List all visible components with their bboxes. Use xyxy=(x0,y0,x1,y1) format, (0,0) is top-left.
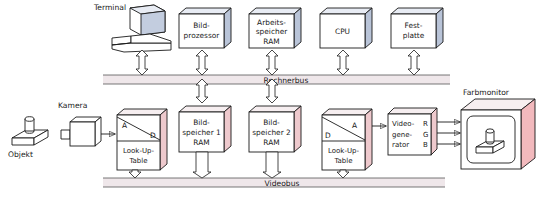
arrow-bildprozessor-to-rechnerbus xyxy=(196,50,208,75)
bildspeicher1-line-3: RAM xyxy=(193,138,209,147)
bildspeicher1-line-1: Bild- xyxy=(193,118,210,127)
lut-ad-analog-label: A xyxy=(122,121,127,130)
bildprozessor-line-2: prozessor xyxy=(184,31,221,40)
arrow-festplatte-to-rechnerbus xyxy=(408,50,420,75)
festplatte-line-1: Fest- xyxy=(405,21,423,30)
terminal-label: Terminal xyxy=(93,3,126,12)
arrow-terminal-to-rechnerbus xyxy=(136,50,148,75)
bildspeicher2-line-1: Bild- xyxy=(263,118,280,127)
videobus: Videobus xyxy=(103,178,445,188)
unit-videogenerator: Video- gene- rator R G B xyxy=(388,108,460,155)
objekt-label: Objekt xyxy=(8,150,33,159)
arrow-videobus-to-lut-da xyxy=(337,170,349,178)
unit-bildspeicher1: Bild- speicher 1 RAM xyxy=(179,106,231,152)
farbmonitor-label: Farbmonitor xyxy=(463,88,510,97)
lut-da-line-1: Look-Up- xyxy=(328,147,359,155)
unit-festplatte: Fest- platte xyxy=(391,8,443,48)
arbeitsspeicher-line-2: speicher xyxy=(256,27,288,36)
unit-bildspeicher2: Bild- speicher 2 RAM xyxy=(249,106,301,152)
unit-cpu: CPU xyxy=(320,8,372,48)
lut-ad-digital-label: D xyxy=(150,131,156,140)
unit-objekt: Objekt xyxy=(8,117,48,159)
unit-lut-da: D A Look-Up- Table xyxy=(322,109,386,170)
arbeitsspeicher-line-3: RAM xyxy=(263,37,279,46)
videogenerator-output-g: G xyxy=(423,131,428,139)
arrow-lut-ad-to-videobus xyxy=(129,170,141,178)
unit-kamera: Kamera xyxy=(58,101,115,146)
bildprozessor-line-1: Bild- xyxy=(193,21,210,30)
bildspeicher2-line-3: RAM xyxy=(263,138,279,147)
figure-canvas: Rechnerbus Videobus Terminal xyxy=(0,0,541,202)
unit-arbeitsspeicher: Arbeits- speicher RAM xyxy=(249,8,301,48)
videogenerator-line-1: Video- xyxy=(392,120,415,128)
lut-ad-line-2: Table xyxy=(128,157,147,165)
unit-terminal: Terminal xyxy=(93,3,171,52)
arrow-bildspeicher1-to-videobus xyxy=(193,152,211,178)
lut-da-line-2: Table xyxy=(333,157,352,165)
arbeitsspeicher-line-1: Arbeits- xyxy=(257,18,286,27)
bildspeicher2-line-2: speicher 2 xyxy=(252,128,291,137)
arrow-bildspeicher2-to-videobus xyxy=(263,152,281,178)
lut-da-analog-label: A xyxy=(352,121,357,130)
videogenerator-line-2: gene- xyxy=(392,131,412,139)
arrow-cpu-to-rechnerbus xyxy=(337,50,349,75)
arrow-arbeitsspeicher-to-rechnerbus xyxy=(266,50,278,75)
lut-ad-line-1: Look-Up- xyxy=(123,147,154,155)
festplatte-line-2: platte xyxy=(403,31,425,40)
videogenerator-output-b: B xyxy=(423,141,428,149)
bildspeicher1-line-2: speicher 1 xyxy=(182,128,221,137)
unit-lut-ad: A D Look-Up- Table xyxy=(117,109,167,170)
unit-bildprozessor: Bild- prozessor xyxy=(179,8,231,48)
block-diagram-svg: Rechnerbus Videobus Terminal xyxy=(0,0,541,202)
videobus-label: Videobus xyxy=(265,179,300,188)
videogenerator-output-r: R xyxy=(423,120,428,128)
kamera-label: Kamera xyxy=(58,101,87,110)
cpu-line-1: CPU xyxy=(335,27,350,36)
videogenerator-line-3: rator xyxy=(392,141,409,149)
unit-farbmonitor: Farbmonitor xyxy=(461,88,535,169)
lut-da-digital-label: D xyxy=(325,131,331,140)
